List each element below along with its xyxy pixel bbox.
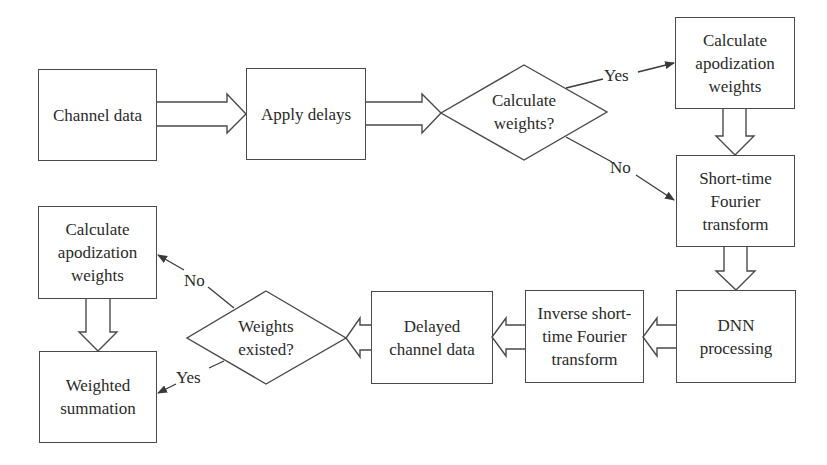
- block-arrow-delays-to-decision: [365, 94, 441, 133]
- block-arrow-istft-to-delayed: [492, 318, 525, 356]
- block-arrow-dnn-to-istft: [643, 318, 676, 356]
- block-arrow-delayed-to-decision2: [346, 318, 371, 357]
- node-label: Inverse short- time Fourier transform: [538, 302, 632, 371]
- line-arrow-no-bottom-b: [158, 255, 184, 270]
- block-arrow-stft-to-dnn: [716, 246, 755, 290]
- node-label: Weighted summation: [60, 374, 136, 420]
- block-arrow-apod2-to-sum: [79, 298, 117, 351]
- node-calculate-apodization-weights-1: Calculate apodization weights: [675, 17, 795, 109]
- node-label: Delayed channel data: [389, 315, 474, 361]
- edge-label-no-top: No: [610, 158, 631, 178]
- edge-label-no-bottom: No: [184, 271, 205, 291]
- node-weighted-summation: Weighted summation: [39, 351, 157, 443]
- line-arrow-yes-bottom-b: [158, 384, 176, 393]
- line-arrow-no-top-a: [566, 137, 612, 162]
- node-inverse-stft: Inverse short- time Fourier transform: [525, 290, 644, 383]
- decision-weights-existed-label: Weights existed?: [212, 314, 320, 362]
- block-arrow-apod-to-stft: [716, 108, 754, 155]
- node-label: Apply delays: [261, 103, 351, 126]
- node-delayed-channel-data: Delayed channel data: [371, 291, 493, 384]
- node-label: Calculate apodization weights: [58, 218, 137, 287]
- edge-label-yes-top: Yes: [604, 66, 629, 86]
- line-arrow-yes-top-a: [566, 79, 603, 88]
- line-arrow-no-bottom-a: [208, 287, 234, 308]
- node-label: Calculate apodization weights: [695, 29, 774, 98]
- line-arrow-yes-bottom-a: [209, 361, 224, 368]
- node-label: Channel data: [53, 104, 142, 127]
- node-dnn-processing: DNN processing: [676, 290, 796, 383]
- line-arrow-yes-top-b: [638, 63, 674, 72]
- node-label: Short-time Fourier transform: [699, 167, 772, 236]
- node-apply-delays: Apply delays: [246, 68, 366, 160]
- decision-calculate-weights-label: Calculate weights?: [466, 88, 582, 136]
- node-label: DNN processing: [700, 314, 773, 360]
- edge-label-yes-bottom: Yes: [176, 368, 201, 388]
- node-calculate-apodization-weights-2: Calculate apodization weights: [38, 206, 157, 299]
- node-channel-data: Channel data: [38, 69, 157, 161]
- line-arrow-no-top-b: [636, 175, 674, 200]
- node-short-time-fourier-transform: Short-time Fourier transform: [676, 155, 795, 247]
- block-arrow-channel-to-delays: [156, 94, 246, 133]
